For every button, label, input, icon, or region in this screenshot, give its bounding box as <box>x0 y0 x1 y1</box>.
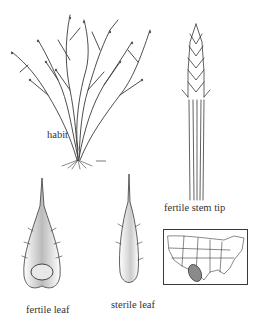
fertile-leaf-label: fertile leaf <box>26 304 69 316</box>
fertile-stem-tip-illustration <box>176 22 216 202</box>
sterile-leaf-label: sterile leaf <box>111 299 155 311</box>
habit-label: habit <box>47 129 68 141</box>
fertile-leaf-illustration <box>18 176 68 296</box>
habit-illustration <box>0 0 160 170</box>
range-area <box>186 262 204 283</box>
sterile-leaf-illustration <box>114 172 144 292</box>
fertile-stem-tip-label: fertile stem tip <box>164 202 225 214</box>
range-map <box>163 229 248 285</box>
artist-signature <box>96 160 106 162</box>
sporangium <box>31 264 53 280</box>
